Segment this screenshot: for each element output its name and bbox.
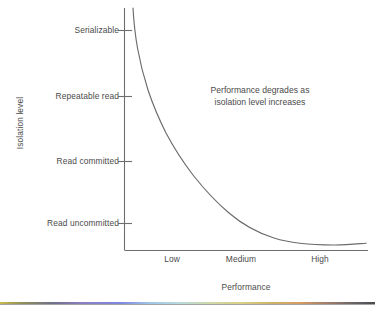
bottom-strip-shadow xyxy=(0,304,375,305)
y-tick-label-read-uncommitted: Read uncommitted xyxy=(47,218,119,228)
x-tick-label-high: High xyxy=(311,254,329,264)
y-tick-label-repeatable-read: Repeatable read xyxy=(56,91,119,101)
plot-annotation-line-1: Performance degrades as xyxy=(184,84,336,96)
y-axis-title: Isolation level xyxy=(15,83,25,163)
chart-figure: Serializable Repeatable read Read commit… xyxy=(0,0,375,310)
plot-annotation-line-2: isolation level increases xyxy=(184,96,336,108)
y-tick-label-read-committed: Read committed xyxy=(57,156,119,166)
plot-annotation: Performance degrades as isolation level … xyxy=(184,84,336,108)
x-axis-title: Performance xyxy=(221,282,270,292)
y-tick-label-serializable: Serializable xyxy=(75,25,120,35)
x-tick-label-medium: Medium xyxy=(226,254,256,264)
x-tick-label-low: Low xyxy=(164,254,180,264)
data-curve xyxy=(133,8,366,245)
